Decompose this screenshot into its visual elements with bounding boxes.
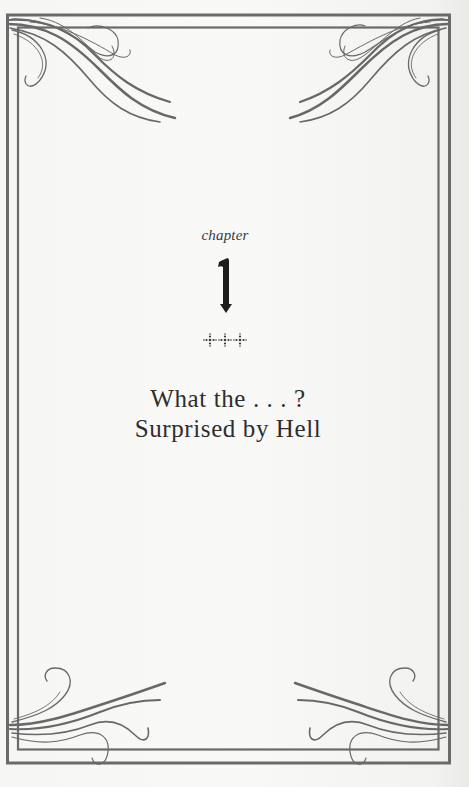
book-page: chapter 1: [0, 0, 469, 787]
cross-dots-ornament-icon: [203, 333, 247, 347]
chapter-title-line-2: Surprised by Hell: [0, 414, 456, 444]
corner-flourish-top-right: [290, 18, 448, 122]
chapter-title: What the . . . ? Surprised by Hell: [0, 384, 456, 444]
chapter-number: 1: [0, 258, 450, 314]
blackletter-numeral-one-icon: [215, 258, 235, 314]
ornament-divider: [0, 333, 450, 347]
chapter-title-line-1: What the . . . ?: [0, 384, 456, 414]
chapter-label: chapter: [0, 227, 450, 244]
corner-flourish-top-left: [8, 18, 175, 122]
